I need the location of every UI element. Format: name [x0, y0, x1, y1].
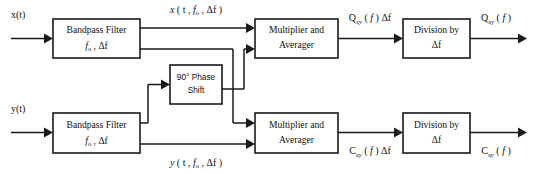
wire-phase-shift-to-upper-multiplier [222, 44, 255, 89]
label-input-y: y(t) [11, 103, 25, 115]
block-diagram-canvas: Bandpass Filter fo , Δf Bandpass Filter … [0, 0, 533, 174]
label-quad-final: Qxy ( f ) [481, 12, 511, 24]
label-filtered-x: x ( t , fo , Δf ) [169, 4, 222, 16]
multiplier-lower-line2: Averager [279, 134, 315, 145]
wire-upper-multiplier-to-division [338, 34, 403, 44]
block-phase-shift[interactable]: 90° Phase Shift [170, 65, 222, 104]
block-bandpass-filter-upper[interactable]: Bandpass Filter fo , Δf [53, 19, 140, 58]
phase-shift-line1: 90° Phase [177, 72, 216, 82]
label-quad-scaled: Qxy ( f ) Δf [349, 12, 392, 24]
wire-upper-output [470, 34, 527, 44]
division-lower-line2: Δf [432, 134, 442, 145]
wire-input-x [11, 34, 53, 44]
wire-lower-multiplier-to-division [338, 128, 403, 138]
wire-y-to-phase-shift [140, 80, 170, 124]
block-multiplier-averager-upper[interactable]: Multiplier and Averager [255, 19, 338, 58]
block-multiplier-averager-lower[interactable]: Multiplier and Averager [255, 113, 338, 153]
division-upper-line1: Division by [414, 24, 459, 35]
division-lower-line1: Division by [414, 119, 459, 130]
bandpass-upper-line1: Bandpass Filter [67, 24, 128, 35]
multiplier-upper-line2: Averager [279, 39, 315, 50]
wire-lower-output [470, 128, 527, 138]
multiplier-lower-line1: Multiplier and [269, 119, 324, 130]
label-filtered-y: y ( t , fo , Δf ) [169, 157, 222, 169]
diagram-svg: Bandpass Filter fo , Δf Bandpass Filter … [0, 0, 533, 174]
label-cospec-final: Cxy ( f ) [481, 145, 511, 157]
block-division-lower[interactable]: Division by Δf [403, 113, 470, 153]
phase-shift-line2: Shift [188, 85, 205, 95]
label-input-x: x(t) [11, 9, 25, 21]
multiplier-upper-line1: Multiplier and [269, 24, 324, 35]
wire-input-y [11, 128, 53, 138]
label-cospec-scaled: Cxy ( f ) Δf [349, 145, 391, 157]
division-upper-line2: Δf [432, 39, 442, 50]
block-division-upper[interactable]: Division by Δf [403, 19, 470, 58]
wire-x-to-upper-multiplier [140, 23, 255, 33]
wire-y-to-lower-multiplier [140, 139, 255, 149]
block-bandpass-filter-lower[interactable]: Bandpass Filter fo , Δf [53, 113, 140, 153]
bandpass-lower-line1: Bandpass Filter [67, 119, 128, 130]
